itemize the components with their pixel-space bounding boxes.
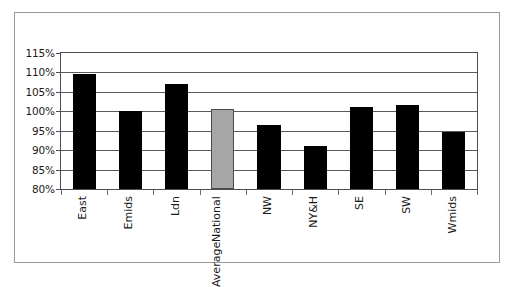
y-axis-tick-label: 90%: [32, 144, 55, 156]
bar-fill: [396, 105, 419, 189]
x-axis-label-line: Average: [211, 242, 223, 287]
bar-wmids[interactable]: [442, 132, 465, 190]
x-axis-tick: [107, 190, 108, 195]
x-axis-label-emids: Emids: [123, 196, 135, 229]
bar-fill: [211, 109, 234, 189]
x-axis-label-east: East: [77, 196, 89, 220]
x-axis-tick: [385, 190, 386, 195]
y-axis-tick-label: 95%: [32, 125, 55, 137]
x-axis-label-sw: SW: [401, 196, 413, 214]
bar-fill: [165, 84, 188, 189]
bar-fill: [119, 111, 142, 189]
bar-se[interactable]: [350, 107, 373, 189]
bar-fill: [350, 107, 373, 189]
x-axis-label-nw: NW: [262, 196, 274, 215]
bar-fill: [257, 125, 280, 189]
x-axis-label-national-average: NationalAverage: [211, 196, 223, 287]
bar-ny-h[interactable]: [304, 146, 327, 189]
x-axis-tick: [431, 190, 432, 195]
bar-national-average[interactable]: [211, 109, 234, 189]
bar-east[interactable]: [73, 74, 96, 189]
y-axis-tick-label: 115%: [25, 47, 55, 59]
y-axis-labels: 115%110%105%100%95%90%85%80%: [0, 0, 55, 279]
x-axis-label-se: SE: [354, 196, 366, 210]
x-axis-tick: [61, 190, 62, 195]
bar-ldn[interactable]: [165, 84, 188, 189]
x-axis-labels: EastEmidsLdnNationalAverageNWNY&HSESWWmi…: [60, 196, 478, 271]
x-axis-tick: [246, 190, 247, 195]
bar-emids[interactable]: [119, 111, 142, 189]
y-axis-tick-label: 110%: [25, 66, 55, 78]
y-axis-tick-label: 105%: [25, 86, 55, 98]
bar-nw[interactable]: [257, 125, 280, 189]
y-axis-tick-label: 85%: [32, 164, 55, 176]
bar-sw[interactable]: [396, 105, 419, 189]
x-axis-label-ldn: Ldn: [170, 196, 182, 216]
x-axis-tick: [477, 190, 478, 195]
x-axis-label-line: National: [211, 196, 223, 242]
bar-fill: [442, 132, 465, 190]
y-axis-tick-label: 100%: [25, 105, 55, 117]
y-axis-tick-label: 80%: [32, 183, 55, 195]
x-axis-label-ny-h: NY&H: [308, 196, 320, 228]
bar-fill: [73, 74, 96, 189]
bar-fill: [304, 146, 327, 189]
x-axis-tick: [338, 190, 339, 195]
bars-group: [61, 53, 477, 189]
x-axis-tick: [153, 190, 154, 195]
x-axis-tick: [292, 190, 293, 195]
x-axis-label-wmids: Wmids: [447, 196, 459, 233]
x-axis-tick: [200, 190, 201, 195]
